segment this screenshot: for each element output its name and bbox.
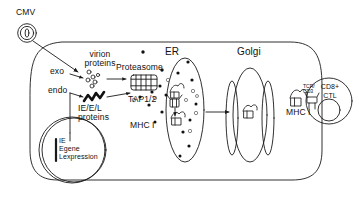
endo-arrow <box>70 93 83 97</box>
iel-proteins-label-line2: proteins <box>78 113 109 123</box>
golgi-apparatus <box>226 68 274 162</box>
proteasome-label: Proteasome <box>116 63 163 73</box>
mhc-i-er-complex-lower <box>171 112 185 125</box>
exo-arrow <box>70 74 83 78</box>
iel-protein-chain <box>84 92 104 101</box>
endoplasmic-reticulum <box>166 58 204 162</box>
cmv-label: CMV <box>16 8 35 18</box>
tcr-cd3-label-line2: CD3 <box>303 89 313 94</box>
exo-label: exo <box>50 67 64 77</box>
cd8-ctl-label-line2: CTL <box>314 92 346 100</box>
cmv-virion-icon <box>18 24 37 43</box>
cd8-ctl-label-line1: CD8+ <box>314 83 346 91</box>
diagram-vector-layer <box>0 0 359 203</box>
er-label: ER <box>165 46 179 57</box>
nucleus-gene-expression-line2: Egene <box>59 145 80 153</box>
mhc-i-surface-label: MHC I <box>286 108 311 118</box>
golgi-label: Golgi <box>237 46 261 57</box>
endo-label: endo <box>48 86 67 96</box>
iel-to-proteasome-arrow <box>107 93 130 97</box>
diagram-canvas: CMV exo endo virion proteins IE/E/L prot… <box>0 0 359 203</box>
tap-label: TAP1/2 <box>128 95 156 105</box>
virion-protein-particles <box>86 70 100 88</box>
proteasome-icon <box>131 75 157 90</box>
tap-transporter-icon <box>167 95 182 107</box>
nucleus-gene-expression-line1: IE <box>59 137 66 145</box>
nucleus-gene-expression-line3: Lexpression <box>59 153 98 161</box>
mhc-i-er-label: MHC I <box>130 121 155 131</box>
mhc-i-golgi-complex <box>243 105 257 118</box>
